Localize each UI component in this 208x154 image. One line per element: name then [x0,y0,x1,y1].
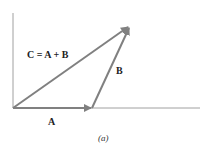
b-label: B [116,65,123,76]
a-label: A [48,116,55,127]
vector-addition-diagram [0,0,208,154]
c-equation-label: C = A + B [27,49,68,60]
caption: (a) [98,133,109,143]
